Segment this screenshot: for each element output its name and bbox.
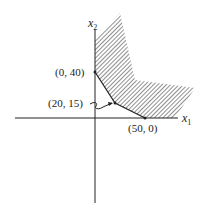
vertex-dot-20-15 [114,102,117,105]
feasible-region-diagram: x2 x1 (0, 40) (20, 15) (50, 0) [0,0,207,213]
vertex-dot-0-40 [94,71,97,74]
vertex-label-20-15: (20, 15) [48,97,83,110]
x2-axis-label: x2 [87,16,97,32]
hatched-region [95,13,195,118]
x1-axis-label: x1 [181,111,191,127]
vertex-label-0-40: (0, 40) [55,66,85,79]
pointer-arrowhead [108,102,113,106]
vertex-label-50-0: (50, 0) [128,122,158,135]
vertex-dot-50-0 [144,117,147,120]
